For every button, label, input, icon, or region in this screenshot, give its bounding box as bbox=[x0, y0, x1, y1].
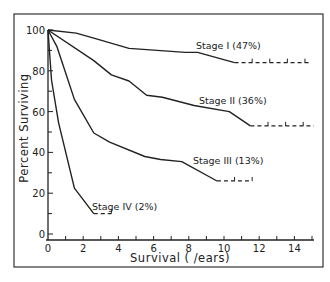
x-tick-label: 12 bbox=[253, 243, 266, 254]
y-tick-label: 20 bbox=[32, 188, 45, 199]
label-stage-2: Stage II (36%) bbox=[199, 95, 267, 106]
y-tick-label: 80 bbox=[32, 66, 45, 77]
y-axis-title: Percent Surviving bbox=[17, 73, 31, 182]
x-tick-label: 4 bbox=[115, 243, 121, 254]
label-stage-3: Stage III (13%) bbox=[193, 155, 263, 166]
x-tick-label: 2 bbox=[80, 243, 86, 254]
y-tick-label: 60 bbox=[32, 107, 45, 118]
label-stage-4: Stage IV (2%) bbox=[92, 201, 157, 212]
y-tick-label: 40 bbox=[32, 147, 45, 158]
chart-frame bbox=[14, 14, 323, 267]
x-axis-title: Survival ( /ears) bbox=[130, 251, 230, 265]
survival-curves bbox=[48, 30, 314, 214]
axes bbox=[46, 30, 314, 240]
survival-chart: 02468101214 020406080100 Survival ( /ear… bbox=[0, 0, 330, 282]
y-tick-label: 0 bbox=[39, 229, 45, 240]
label-stage-1: Stage I (47%) bbox=[196, 40, 261, 51]
y-tick-label: 100 bbox=[26, 25, 45, 36]
x-tick-label: 0 bbox=[45, 243, 51, 254]
x-tick-label: 14 bbox=[288, 243, 301, 254]
